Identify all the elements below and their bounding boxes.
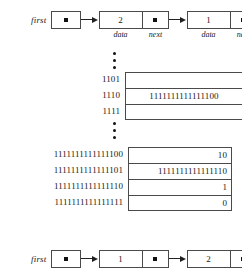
memory-row: 1110 1111111111111100 xyxy=(60,88,242,104)
pointer-dot-icon xyxy=(64,257,68,261)
top-node-1-next-label: next xyxy=(143,30,169,39)
memory-value: 1111111111111100 xyxy=(125,88,242,104)
bottom-node-2-data: 2 xyxy=(187,250,231,268)
top-first-label: first xyxy=(31,11,47,29)
bottom-node-2: 2 xyxy=(187,250,242,268)
arrow-right-icon xyxy=(169,250,187,268)
vertical-ellipsis-top xyxy=(112,52,116,69)
memory-value: 10 xyxy=(128,147,232,163)
bottom-node-1-data: 1 xyxy=(99,250,143,268)
memory-address: 1111111111111111 xyxy=(5,195,128,211)
memory-address: 1101 xyxy=(60,72,125,88)
memory-table-lower: 1111111111111100 10 1111111111111101 111… xyxy=(5,147,232,211)
top-linked-list: first 2 data next 1 xyxy=(31,11,242,39)
memory-row: 1111111111111100 10 xyxy=(5,147,232,163)
top-node-2-data-label: data xyxy=(187,30,231,39)
vertical-ellipsis-middle xyxy=(112,122,116,139)
memory-value: 0 xyxy=(128,195,232,211)
bottom-node-1-next xyxy=(143,250,169,268)
memory-row: 1111 xyxy=(60,104,242,120)
top-node-1: 2 data next xyxy=(99,11,169,39)
pointer-dot-icon xyxy=(153,18,157,22)
arrow-right-icon xyxy=(169,11,187,29)
memory-address: 1111111111111100 xyxy=(5,147,128,163)
top-node-1-data-label: data xyxy=(99,30,143,39)
bottom-linked-list: first 1 2 xyxy=(31,250,242,268)
top-first-pointer-box xyxy=(51,11,81,29)
arrow-right-icon xyxy=(81,11,99,29)
pointer-dot-icon xyxy=(241,257,242,261)
top-node-2-next-label: next xyxy=(231,30,242,39)
memory-row: 1101 xyxy=(60,72,242,88)
pointer-dot-icon xyxy=(64,18,68,22)
pointer-dot-icon xyxy=(241,18,242,22)
memory-row: 1111111111111111 0 xyxy=(5,195,232,211)
bottom-first-pointer-box xyxy=(51,250,81,268)
bottom-node-2-next xyxy=(231,250,242,268)
memory-value: 1 xyxy=(128,179,232,195)
top-node-2-next xyxy=(231,11,242,29)
top-node-2: 1 data next xyxy=(187,11,242,39)
figure-canvas: first 2 data next 1 xyxy=(0,0,242,279)
pointer-dot-icon xyxy=(153,257,157,261)
arrow-right-icon xyxy=(81,250,99,268)
memory-table-upper: 1101 1110 1111111111111100 1111 xyxy=(60,72,242,120)
memory-address: 1111 xyxy=(60,104,125,120)
top-node-1-data: 2 xyxy=(99,11,143,29)
bottom-node-1: 1 xyxy=(99,250,169,268)
memory-address: 1111111111111110 xyxy=(5,179,128,195)
memory-row: 1111111111111101 1111111111111110 xyxy=(5,163,232,179)
top-node-2-data: 1 xyxy=(187,11,231,29)
memory-value xyxy=(125,72,242,88)
memory-value: 1111111111111110 xyxy=(128,163,232,179)
memory-address: 1110 xyxy=(60,88,125,104)
memory-value xyxy=(125,104,242,120)
top-node-1-next xyxy=(143,11,169,29)
memory-address: 1111111111111101 xyxy=(5,163,128,179)
memory-row: 1111111111111110 1 xyxy=(5,179,232,195)
bottom-first-label: first xyxy=(31,250,47,268)
